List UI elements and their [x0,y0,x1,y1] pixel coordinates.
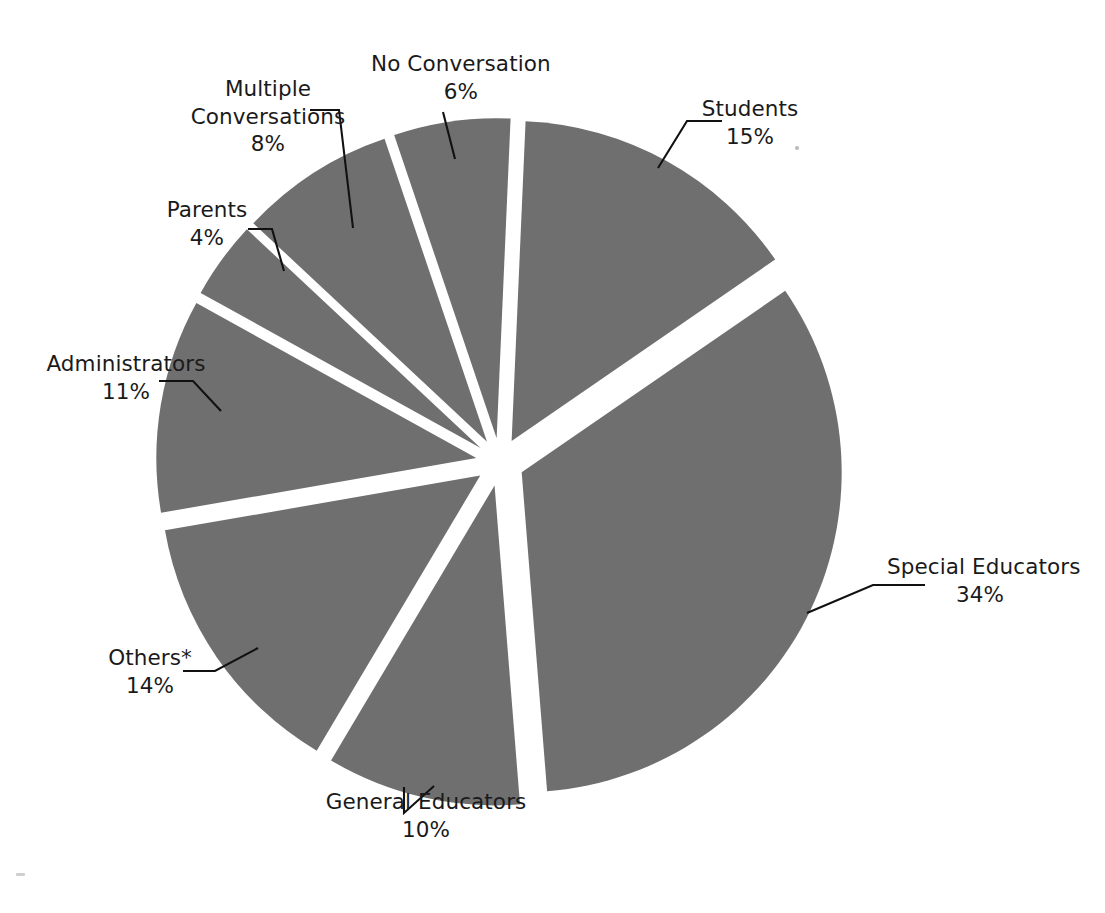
slice-label-general-educators: General Educators 10% [323,788,529,843]
slice-label-parents-pct: 4% [158,224,256,252]
pie-chart-svg [0,0,1105,913]
slice-label-others-name: Others* [108,645,192,670]
slice-label-multiple-conversations: Multiple Conversations 8% [182,75,354,158]
slice-label-multiple-conversations-name: Multiple [225,76,311,101]
pie-slices-group [156,118,841,805]
slice-label-students-pct: 15% [699,123,801,151]
slice-label-parents-name: Parents [167,197,248,222]
slice-label-multiple-conversations-name2: Conversations [182,103,354,131]
slice-label-special-educators-pct: 34% [887,581,1073,609]
slice-label-general-educators-pct: 10% [323,816,529,844]
slice-label-special-educators: Special Educators 34% [887,553,1073,608]
slice-label-administrators: Administrators 11% [46,350,206,405]
slice-label-no-conversation: No Conversation 6% [371,50,551,105]
slice-label-no-conversation-name: No Conversation [371,51,551,76]
slice-label-others-pct: 14% [104,672,196,700]
slice-label-administrators-name: Administrators [46,351,205,376]
slice-label-administrators-pct: 11% [46,378,206,406]
scan-speck-2 [16,873,25,876]
slice-label-others: Others* 14% [104,644,196,699]
slice-label-multiple-conversations-pct: 8% [182,130,354,158]
slice-label-students-name: Students [702,96,799,121]
slice-label-no-conversation-pct: 6% [371,78,551,106]
slice-label-general-educators-name: General Educators [326,789,527,814]
slice-label-special-educators-name: Special Educators [887,554,1080,579]
slice-label-parents: Parents 4% [158,196,256,251]
scan-speck [795,146,799,150]
pie-chart-figure: No Conversation 6% Multiple Conversation… [0,0,1105,913]
slice-label-students: Students 15% [699,95,801,150]
